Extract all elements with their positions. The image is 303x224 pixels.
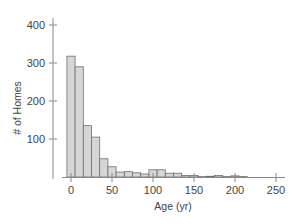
histogram-bar bbox=[75, 67, 83, 177]
histogram-chart: 100200300400 050100150200250 Age (yr) # … bbox=[0, 0, 303, 224]
y-axis-label: # of Homes bbox=[11, 81, 23, 135]
histogram-bar bbox=[215, 175, 223, 177]
histogram-bars bbox=[67, 56, 247, 177]
histogram-bar bbox=[174, 173, 182, 177]
x-axis-label: Age (yr) bbox=[154, 200, 191, 212]
y-tick-label: 200 bbox=[27, 95, 45, 107]
x-tick-label: 250 bbox=[267, 184, 285, 196]
y-axis-ticks: 100200300400 bbox=[27, 19, 57, 145]
histogram-bar bbox=[124, 172, 132, 177]
histogram-bar bbox=[182, 175, 190, 177]
histogram-bar bbox=[206, 176, 214, 177]
histogram-bar bbox=[92, 137, 100, 177]
y-tick-label: 300 bbox=[27, 57, 45, 69]
y-tick-label: 400 bbox=[27, 19, 45, 31]
y-tick-label: 100 bbox=[27, 133, 45, 145]
histogram-bar bbox=[165, 173, 173, 177]
histogram-bar bbox=[116, 172, 124, 177]
x-tick-label: 200 bbox=[226, 184, 244, 196]
x-tick-label: 50 bbox=[106, 184, 118, 196]
histogram-bar bbox=[67, 56, 75, 177]
x-tick-label: 0 bbox=[68, 184, 74, 196]
histogram-bar bbox=[157, 170, 165, 177]
x-tick-label: 100 bbox=[144, 184, 162, 196]
histogram-bar bbox=[141, 174, 149, 177]
histogram-bar bbox=[83, 126, 91, 177]
histogram-bar bbox=[133, 173, 141, 177]
x-tick-label: 150 bbox=[185, 184, 203, 196]
histogram-bar bbox=[100, 159, 108, 177]
